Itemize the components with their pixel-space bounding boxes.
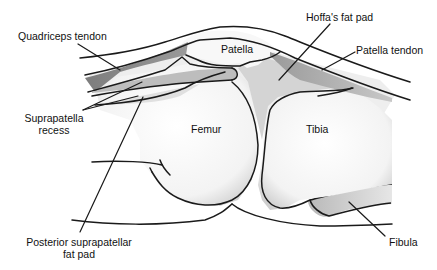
label-posterior-suprapatellar-fat-pad: Posterior suprapatellar fat pad [24,236,134,260]
leader-posterior-fat-pad [80,97,143,232]
label-posterior-fat-pad-line2: fat pad [24,248,134,260]
label-suprapatella-recess: Suprapatella recess [24,112,84,136]
label-fibula: Fibula [389,236,418,248]
label-suprapatella-recess-line2: recess [24,124,84,136]
label-hoffas-fat-pad: Hoffa's fat pad [306,11,373,23]
label-quadriceps-tendon: Quadriceps tendon [18,30,107,42]
label-suprapatella-recess-line1: Suprapatella [24,112,84,124]
label-patella-tendon: Patella tendon [356,44,423,56]
knee-diagram: Quadriceps tendon Suprapatella recess Po… [0,0,437,270]
label-patella: Patella [221,43,253,55]
label-posterior-fat-pad-line1: Posterior suprapatellar [24,236,134,248]
label-tibia: Tibia [306,123,328,135]
label-femur: Femur [191,123,221,135]
